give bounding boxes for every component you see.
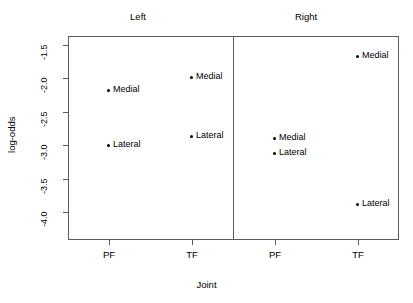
data-point-right-pf-medial[interactable] [273, 137, 276, 140]
panel-divider [233, 36, 234, 240]
x-axis-title: Joint [0, 280, 413, 290]
x-tick-mark [109, 240, 110, 245]
data-point-right-tf-lateral[interactable] [356, 203, 359, 206]
data-point-right-tf-medial[interactable] [356, 55, 359, 58]
data-point-left-pf-lateral[interactable] [107, 144, 110, 147]
data-point-left-tf-lateral[interactable] [190, 135, 193, 138]
y-tick-mark [63, 179, 68, 180]
y-tick-mark [63, 145, 68, 146]
data-label-right-pf-medial: Medial [279, 133, 306, 142]
chart-figure: Left Right -1.5 -2.0 -2.5 -3.0 -3.5 -4.0… [0, 0, 413, 303]
data-label-left-pf-lateral: Lateral [113, 140, 141, 149]
panel-header-right: Right [276, 12, 336, 22]
y-axis-title: log-odds [7, 100, 17, 170]
data-label-left-pf-medial: Medial [113, 85, 140, 94]
x-tick-label-left-tf: TF [172, 250, 212, 260]
data-label-right-tf-lateral: Lateral [362, 199, 390, 208]
y-tick-mark [63, 45, 68, 46]
x-tick-label-right-tf: TF [338, 250, 378, 260]
y-tick-mark [63, 78, 68, 79]
data-label-left-tf-medial: Medial [196, 72, 223, 81]
y-tick-mark [63, 112, 68, 113]
x-tick-label-right-pf: PF [255, 250, 295, 260]
x-tick-mark [358, 240, 359, 245]
data-label-right-tf-medial: Medial [362, 51, 389, 60]
data-point-right-pf-lateral[interactable] [273, 152, 276, 155]
data-label-right-pf-lateral: Lateral [279, 148, 307, 157]
x-tick-label-left-pf: PF [89, 250, 129, 260]
panel-header-left: Left [108, 12, 168, 22]
x-tick-mark [192, 240, 193, 245]
data-point-left-tf-medial[interactable] [190, 76, 193, 79]
data-point-left-pf-medial[interactable] [107, 89, 110, 92]
y-tick-label: -4.0 [40, 212, 49, 270]
y-tick-mark [63, 212, 68, 213]
data-label-left-tf-lateral: Lateral [196, 131, 224, 140]
x-tick-mark [275, 240, 276, 245]
